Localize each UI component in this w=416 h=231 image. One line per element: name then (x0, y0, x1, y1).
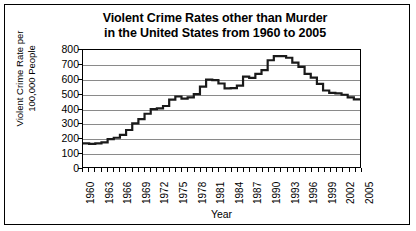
x-axis-tick-mark (206, 168, 207, 172)
x-axis-tick-mark (256, 168, 257, 172)
x-axis-tick-mark (150, 168, 151, 172)
line-series-violent-crime-rate (83, 50, 360, 167)
y-axis-tick-label: 500 (45, 89, 79, 99)
plot-area (82, 49, 361, 168)
chart-title-line-1: Violent Crime Rates other than Murder (65, 11, 365, 26)
x-axis-tick-mark (237, 168, 238, 172)
x-axis-tick-label: 2002 (346, 182, 356, 204)
y-axis-tick-label: 700 (45, 59, 79, 69)
x-axis-tick-mark (107, 168, 108, 172)
x-axis-tick-mark (132, 168, 133, 172)
x-axis-tick-mark (262, 168, 263, 172)
x-axis-tick-mark (82, 168, 83, 172)
x-axis-tick-label: 1978 (198, 182, 208, 204)
x-axis-tick-mark (138, 168, 139, 172)
x-axis-tick-label: 2005 (365, 182, 375, 204)
x-axis-tick-mark (187, 168, 188, 172)
x-axis-tick-mark (336, 168, 337, 172)
y-axis-tick-label: 300 (45, 118, 79, 128)
x-axis-tick-mark (163, 168, 164, 172)
x-axis-tick-mark (293, 168, 294, 172)
x-axis-tick-mark (311, 168, 312, 172)
x-axis-tick-label: 1972 (160, 182, 170, 204)
x-axis-tick-label: 1969 (142, 182, 152, 204)
x-axis-tick-label: 1984 (235, 182, 245, 204)
chart-title: Violent Crime Rates other than Murder in… (65, 11, 365, 41)
y-axis-tick-label: 600 (45, 74, 79, 84)
x-axis-tick-label: 1996 (309, 182, 319, 204)
x-axis-tick-label: 1993 (291, 182, 301, 204)
x-axis-tick-mark (280, 168, 281, 172)
y-axis-label-line-1: Violent Crime Rate per (14, 19, 26, 139)
x-axis-tick-mark (175, 168, 176, 172)
x-axis-tick-marks (82, 168, 361, 173)
y-axis-tick-label: 100 (45, 148, 79, 158)
x-axis-tick-mark (119, 168, 120, 172)
x-axis-tick-mark (305, 168, 306, 172)
x-axis-tick-mark (249, 168, 250, 172)
x-axis-tick-mark (324, 168, 325, 172)
x-axis-tick-mark (225, 168, 226, 172)
x-axis-tick-mark (113, 168, 114, 172)
x-axis-tick-mark (94, 168, 95, 172)
y-axis-tick-label: 800 (45, 44, 79, 54)
x-axis-tick-label: 1960 (86, 182, 96, 204)
x-axis-tick-label: 1975 (179, 182, 189, 204)
y-axis-tick-label: 0 (45, 163, 79, 173)
x-axis-tick-mark (243, 168, 244, 172)
x-axis-tick-mark (330, 168, 331, 172)
x-axis-tick-mark (342, 168, 343, 172)
x-axis-tick-mark (287, 168, 288, 172)
x-axis-tick-mark (355, 168, 356, 172)
x-axis-tick-label: 1987 (253, 182, 263, 204)
x-axis-tick-mark (194, 168, 195, 172)
x-axis-tick-mark (88, 168, 89, 172)
x-axis-tick-label: 1990 (272, 182, 282, 204)
x-axis-tick-mark (101, 168, 102, 172)
x-axis-tick-mark (200, 168, 201, 172)
x-axis-tick-labels: 1960196319661969197219751978198119841987… (82, 174, 361, 208)
y-axis-tick-label: 200 (45, 133, 79, 143)
x-axis-tick-mark (218, 168, 219, 172)
x-axis-tick-mark (349, 168, 350, 172)
chart-title-line-2: in the United States from 1960 to 2005 (65, 26, 365, 41)
x-axis-tick-mark (125, 168, 126, 172)
x-axis-tick-mark (361, 168, 362, 172)
x-axis-tick-mark (212, 168, 213, 172)
x-axis-tick-label: 1963 (105, 182, 115, 204)
chart-figure: Violent Crime Rates other than Murder in… (4, 4, 410, 225)
y-axis-label-line-2: 100,000 People (25, 19, 37, 139)
x-axis-tick-mark (169, 168, 170, 172)
x-axis-tick-label: 1981 (216, 182, 226, 204)
y-axis-label: Violent Crime Rate per 100,000 People (14, 19, 37, 139)
x-axis-tick-mark (274, 168, 275, 172)
x-axis-label: Year (82, 208, 361, 220)
x-axis-tick-mark (318, 168, 319, 172)
x-axis-tick-mark (268, 168, 269, 172)
x-axis-tick-label: 1966 (123, 182, 133, 204)
x-axis-tick-mark (299, 168, 300, 172)
x-axis-tick-mark (231, 168, 232, 172)
x-axis-tick-mark (156, 168, 157, 172)
x-axis-tick-mark (144, 168, 145, 172)
y-axis-tick-labels: 0100200300400500600700800 (41, 49, 79, 168)
x-axis-tick-mark (181, 168, 182, 172)
y-axis-tick-label: 400 (45, 104, 79, 114)
x-axis-tick-label: 1999 (328, 182, 338, 204)
